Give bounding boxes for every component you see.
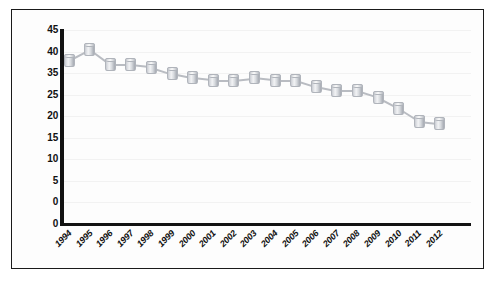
x-tick-label: 2003 [238,228,259,249]
x-tick-label: 2011 [403,228,423,248]
x-tick-label: 2001 [197,228,218,249]
x-tick-label: 1995 [73,228,94,249]
x-axis-tick-labels: 1994199519961997199819992000200120022003… [12,10,485,270]
x-tick-label: 1996 [94,228,115,249]
x-tick-label: 2007 [321,228,342,249]
x-tick-label: 1999 [156,228,177,249]
x-tick-label: 2010 [382,228,403,249]
x-tick-label: 2004 [259,228,280,249]
chart-frame: 45403525201510500 1994199519961997199819… [11,9,484,269]
x-tick-label: 2000 [176,228,197,249]
x-tick-label: 2008 [341,228,362,249]
x-tick-label: 1994 [53,228,74,249]
plot-area: 45403525201510500 1994199519961997199819… [12,10,485,270]
x-tick-label: 2009 [362,228,383,249]
x-tick-label: 2012 [424,228,445,249]
x-tick-label: 1997 [115,228,136,249]
x-tick-label: 1998 [135,228,156,249]
x-tick-label: 2006 [300,228,321,249]
x-tick-label: 2002 [218,228,239,249]
x-tick-label: 2005 [279,228,300,249]
